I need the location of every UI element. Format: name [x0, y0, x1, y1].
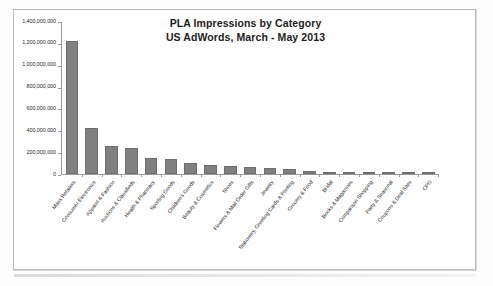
y-axis-tick-mark — [58, 66, 61, 67]
y-axis-tick-mark — [58, 109, 61, 110]
bar-slot — [319, 22, 339, 174]
y-axis-tick-label: 400,000,000 — [27, 127, 56, 133]
bar-slot — [379, 22, 399, 174]
bar-slot — [62, 22, 82, 174]
y-axis-tick-label: 1,400,000,000 — [22, 18, 56, 24]
category-label-slot: Health & Pharmacy — [141, 177, 161, 267]
y-axis-tick-label: 1,000,000,000 — [22, 61, 56, 67]
y-axis-tick-mark — [58, 153, 61, 154]
bar-slot — [300, 22, 320, 174]
y-axis-tick-label: 800,000,000 — [27, 83, 56, 89]
scan-artifact-strip — [14, 274, 476, 277]
bar-slot — [161, 22, 181, 174]
category-label: Shoes — [221, 179, 235, 194]
bar[interactable] — [422, 172, 435, 174]
x-axis-tick-mark — [438, 174, 439, 177]
bar-slot — [359, 22, 379, 174]
bar[interactable] — [85, 128, 98, 174]
bar[interactable] — [323, 172, 336, 174]
plot-area: 1,400,000,0001,200,000,0001,000,000,0008… — [61, 22, 438, 175]
x-axis-category-labels: Mass RetailersConsumer ElectronicsAppare… — [62, 177, 438, 267]
bar-slot — [240, 22, 260, 174]
bar-slot — [280, 22, 300, 174]
y-axis-tick-mark — [58, 22, 61, 23]
bar-series — [62, 22, 438, 174]
bar[interactable] — [283, 169, 296, 174]
bar-slot — [121, 22, 141, 174]
category-label-slot: Auctions & Classifieds — [121, 177, 141, 267]
bar[interactable] — [363, 172, 376, 174]
x-axis-line — [61, 174, 438, 175]
category-label-slot: Stationery, Greeting Cards & Printing — [280, 177, 300, 267]
bar[interactable] — [145, 158, 158, 174]
bar-slot — [220, 22, 240, 174]
category-label-slot: Comparison Shopping — [359, 177, 379, 267]
category-label-slot: Coupons & Deal Sites — [399, 177, 419, 267]
category-label-slot: CPG — [418, 177, 438, 267]
bar[interactable] — [244, 167, 257, 174]
bar-slot — [339, 22, 359, 174]
bar[interactable] — [184, 163, 197, 174]
category-label-slot: Consumer Electronics — [82, 177, 102, 267]
bar[interactable] — [165, 159, 178, 174]
bar[interactable] — [264, 168, 277, 174]
bar-slot — [399, 22, 419, 174]
category-label: CPG — [421, 179, 433, 192]
chart-frame: PLA Impressions by Category US AdWords, … — [13, 9, 476, 270]
category-label-slot: Sporting Goods — [161, 177, 181, 267]
y-axis-tick-mark — [58, 44, 61, 45]
bar-slot — [260, 22, 280, 174]
y-axis-tick-mark — [58, 175, 61, 176]
category-label-slot: Bridal — [319, 177, 339, 267]
y-axis-tick-mark — [58, 88, 61, 89]
bar[interactable] — [105, 146, 118, 174]
y-axis-tick-mark — [58, 131, 61, 132]
category-label: Jewelry — [259, 179, 275, 197]
bar-slot — [418, 22, 438, 174]
category-label: Bridal — [321, 179, 334, 193]
y-axis-tick-label: 1,200,000,000 — [22, 39, 56, 45]
bar-slot — [181, 22, 201, 174]
bar[interactable] — [402, 172, 415, 174]
bar[interactable] — [66, 41, 79, 174]
bar[interactable] — [224, 166, 237, 174]
y-axis-tick-label: 600,000,000 — [27, 105, 56, 111]
bar-slot — [201, 22, 221, 174]
bar[interactable] — [125, 148, 138, 174]
category-label-slot: Children's Goods — [181, 177, 201, 267]
y-axis-tick-label: 0 — [53, 171, 56, 177]
bar[interactable] — [204, 165, 217, 174]
bar-slot — [102, 22, 122, 174]
bar-slot — [141, 22, 161, 174]
bar[interactable] — [343, 172, 356, 174]
category-label-slot: Grocery & Food — [300, 177, 320, 267]
y-axis-tick-label: 200,000,000 — [27, 149, 56, 155]
bar[interactable] — [303, 171, 316, 174]
scanned-page: PLA Impressions by Category US AdWords, … — [0, 0, 493, 286]
bar[interactable] — [382, 172, 395, 174]
bar-slot — [82, 22, 102, 174]
